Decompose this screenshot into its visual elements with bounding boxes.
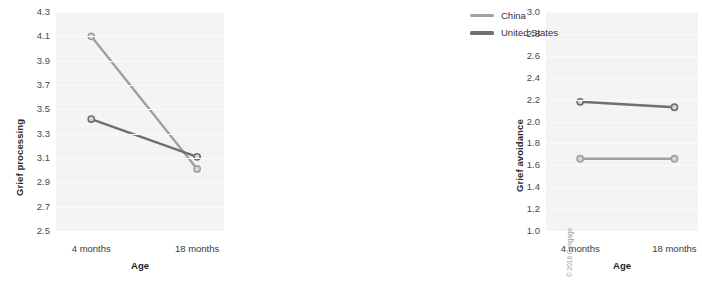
data-point-marker <box>577 156 583 162</box>
x-axis-title-left: Age <box>100 260 180 271</box>
y-tick-label: 3.9 <box>24 56 50 66</box>
data-point-marker <box>671 156 677 162</box>
x-tick-label-18-months-left: 18 months <box>165 243 229 254</box>
gridline <box>546 143 698 144</box>
data-point-marker <box>194 166 200 172</box>
series-lines-left <box>56 12 224 231</box>
gridline <box>546 56 698 57</box>
y-tick-label: 3.5 <box>24 104 50 114</box>
y-tick-label: 1.8 <box>514 138 540 148</box>
series-line-china <box>91 36 197 169</box>
y-tick-label: 2.9 <box>24 177 50 187</box>
y-tick-label: 3.7 <box>24 80 50 90</box>
plot-area-right <box>546 12 698 231</box>
gridline <box>56 61 224 62</box>
legend-label-china: China <box>501 10 526 21</box>
chart-legend: China United States <box>470 8 580 42</box>
copyright-notice: © 2016 Cengage <box>566 228 573 277</box>
y-tick-label: 2.5 <box>24 226 50 236</box>
y-tick-label: 4.3 <box>24 7 50 17</box>
series-line-united-states <box>580 102 674 107</box>
legend-item-china: China <box>470 8 580 23</box>
chart-panel-grief-avoidance: Grief avoidance 3.02.82.62.42.22.01.81.6… <box>250 0 440 286</box>
y-tick-label: 2.7 <box>24 202 50 212</box>
y-tick-label: 3.1 <box>24 153 50 163</box>
y-tick-label: 4.1 <box>24 31 50 41</box>
gridline <box>56 182 224 183</box>
y-tick-label: 2.4 <box>514 73 540 83</box>
x-tick-label-4-months-right: 4 months <box>548 243 612 254</box>
y-axis-title-right: Grief avoidance <box>514 119 525 192</box>
data-point-marker <box>88 116 94 122</box>
gridline <box>56 158 224 159</box>
series-line-united-states <box>91 119 197 157</box>
y-tick-label: 2.6 <box>514 51 540 61</box>
x-tick-label-4-months-left: 4 months <box>59 243 123 254</box>
gridline <box>56 85 224 86</box>
gridline <box>56 12 224 13</box>
gridline <box>56 207 224 208</box>
legend-item-united-states: United States <box>470 25 580 40</box>
y-tick-label: 1.6 <box>514 160 540 170</box>
x-tick-label-18-months-right: 18 months <box>642 243 702 254</box>
plot-area-left <box>56 12 224 231</box>
gridline <box>546 122 698 123</box>
gridline <box>56 134 224 135</box>
gridline <box>56 36 224 37</box>
gridline <box>546 165 698 166</box>
gridline <box>546 209 698 210</box>
gridline <box>546 78 698 79</box>
legend-label-united-states: United States <box>501 27 558 38</box>
y-tick-label: 2.2 <box>514 95 540 105</box>
legend-swatch-china-icon <box>470 14 494 17</box>
gridline <box>546 100 698 101</box>
gridline <box>56 109 224 110</box>
data-point-marker <box>671 104 677 110</box>
y-tick-label: 1.0 <box>514 226 540 236</box>
chart-panel-grief-processing: Grief processing 4.34.13.93.73.53.33.12.… <box>0 0 250 286</box>
y-tick-label: 1.2 <box>514 204 540 214</box>
y-tick-label: 2.0 <box>514 117 540 127</box>
y-tick-label: 3.3 <box>24 129 50 139</box>
y-tick-label: 1.4 <box>514 182 540 192</box>
gridline <box>546 187 698 188</box>
legend-swatch-united-states-icon <box>470 31 494 35</box>
x-axis-title-right: Age <box>582 260 662 271</box>
